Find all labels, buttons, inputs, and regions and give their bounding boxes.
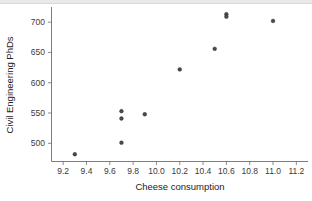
data-point-group: [73, 12, 275, 156]
data-point: [120, 141, 124, 145]
data-point: [213, 47, 217, 51]
y-axis-title: Civil Engineering PhDs: [4, 36, 15, 133]
x-axis-title: Cheese consumption: [135, 181, 224, 192]
y-tick-label: 500: [31, 138, 45, 148]
x-tick-label: 10.8: [241, 166, 258, 176]
x-tick-label: 11.0: [265, 166, 281, 176]
y-tick-label: 550: [31, 108, 45, 118]
data-point: [120, 109, 124, 113]
y-tick-label: 600: [31, 78, 45, 88]
x-tick-label: 9.8: [127, 166, 139, 176]
y-tick-label: 700: [31, 17, 45, 27]
data-point: [143, 112, 147, 116]
y-tick-label: 650: [31, 47, 45, 57]
x-tick-label: 10.6: [218, 166, 235, 176]
y-axis-tick-group: 500550600650700: [31, 17, 52, 148]
x-tick-label: 10.4: [195, 166, 212, 176]
data-point: [120, 117, 124, 121]
x-tick-label: 9.2: [57, 166, 69, 176]
x-tick-label: 11.2: [288, 166, 304, 176]
x-tick-label: 9.6: [104, 166, 116, 176]
x-tick-label: 10.0: [148, 166, 165, 176]
data-point: [178, 68, 182, 72]
data-point: [271, 19, 275, 23]
plot-canvas: 500550600650700 9.29.49.69.810.010.210.4…: [0, 0, 312, 201]
x-axis-tick-group: 9.29.49.69.810.010.210.410.610.811.011.2: [57, 162, 304, 177]
scatter-plot-figure: 500550600650700 9.29.49.69.810.010.210.4…: [0, 0, 312, 201]
data-point: [224, 15, 228, 19]
x-tick-label: 9.4: [81, 166, 93, 176]
x-tick-label: 10.2: [171, 166, 188, 176]
data-point: [73, 152, 77, 156]
